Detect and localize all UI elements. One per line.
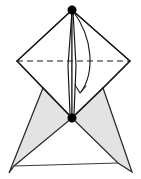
vertex-apex-top-dot (68, 6, 76, 14)
geometric-figure-container (0, 0, 141, 179)
vertex-apex-center-dot (68, 114, 76, 122)
geometric-figure-svg (0, 0, 141, 179)
edge-baseline (14, 163, 118, 166)
